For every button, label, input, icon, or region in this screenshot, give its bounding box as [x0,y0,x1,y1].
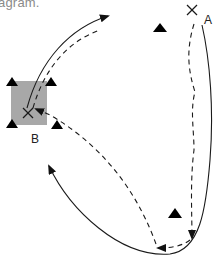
point-a-x-icon [187,5,197,15]
landmark-triangle-icon [168,208,182,218]
landmark-triangle-icon [153,23,167,32]
homing-paths-diagram: B A [0,0,222,256]
point-b-label: B [31,132,39,146]
path-a-solid-loop [49,25,212,254]
path-a-dashed-down [189,24,195,238]
point-a-label: A [204,13,212,27]
